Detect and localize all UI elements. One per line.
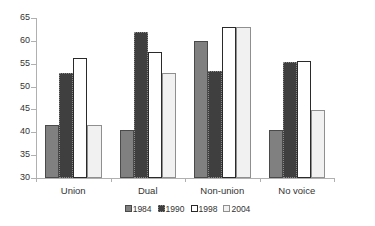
- bar[interactable]: [236, 27, 250, 178]
- y-axis-label: 40: [4, 127, 30, 136]
- bar[interactable]: [297, 61, 311, 178]
- x-axis-category-label: No voice: [260, 185, 335, 196]
- bar[interactable]: [148, 52, 162, 178]
- legend-item[interactable]: 1990: [158, 203, 185, 214]
- bar[interactable]: [87, 125, 101, 178]
- bar[interactable]: [222, 27, 236, 178]
- x-axis-tick: [111, 178, 112, 182]
- bar-group: [194, 18, 251, 178]
- legend-label: 1998: [199, 204, 218, 214]
- bar[interactable]: [45, 125, 59, 178]
- y-axis-label: 65: [4, 13, 30, 22]
- y-axis-label: 60: [4, 36, 30, 45]
- legend-label: 2004: [231, 204, 250, 214]
- plot-area: [36, 18, 334, 178]
- x-axis-tick: [334, 178, 335, 182]
- bar[interactable]: [311, 110, 325, 178]
- x-axis-category-label: Union: [36, 185, 111, 196]
- bar-group: [269, 18, 326, 178]
- bar[interactable]: [73, 58, 87, 178]
- bar[interactable]: [269, 130, 283, 178]
- legend-label: 1984: [133, 204, 152, 214]
- bar-chart: 6560555045403530 UnionDualNon-unionNo vo…: [0, 0, 375, 226]
- bar-group: [45, 18, 102, 178]
- legend-item[interactable]: 2004: [223, 203, 250, 214]
- bar[interactable]: [162, 73, 176, 178]
- chart-legend: 1984199019982004: [0, 203, 375, 214]
- legend-swatch-icon: [158, 205, 165, 212]
- y-axis-label: 45: [4, 104, 30, 113]
- bar[interactable]: [120, 130, 134, 178]
- legend-label: 1990: [166, 204, 185, 214]
- x-axis-tick: [260, 178, 261, 182]
- x-axis-tick: [36, 178, 37, 182]
- bar[interactable]: [134, 32, 148, 178]
- legend-swatch-icon: [191, 205, 198, 212]
- bar-group: [120, 18, 177, 178]
- x-axis-category-label: Dual: [111, 185, 186, 196]
- x-axis-tick: [185, 178, 186, 182]
- legend-item[interactable]: 1984: [125, 203, 152, 214]
- legend-swatch-icon: [223, 205, 230, 212]
- y-axis-label: 50: [4, 82, 30, 91]
- legend-swatch-icon: [125, 205, 132, 212]
- y-axis-label: 35: [4, 150, 30, 159]
- legend-item[interactable]: 1998: [191, 203, 218, 214]
- x-axis-category-label: Non-union: [185, 185, 260, 196]
- y-axis-label: 30: [4, 173, 30, 182]
- y-axis-label: 55: [4, 59, 30, 68]
- bar[interactable]: [59, 73, 73, 178]
- bar[interactable]: [194, 41, 208, 178]
- bar[interactable]: [283, 62, 297, 178]
- bar[interactable]: [208, 71, 222, 178]
